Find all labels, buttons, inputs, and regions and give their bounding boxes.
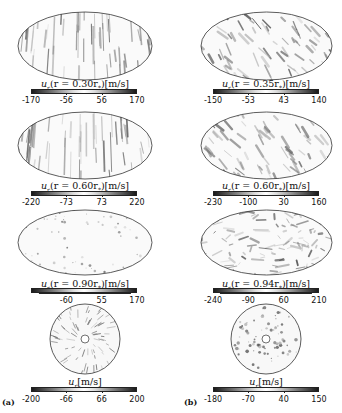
colorbar [213,191,319,196]
colorbar-tick-mark [248,195,249,197]
colorbar-tick-label: 43 [279,96,289,105]
colorbar-tick-label: 73 [97,198,107,207]
colorbar-tick-label: 210 [311,296,326,305]
colorbar-tick-mark [248,292,249,294]
label-tail: )[m/s] [101,78,129,89]
colorbar-tick-label: 30 [279,198,289,207]
colorbar [31,288,137,293]
colorbar-tick-label: -200 [22,395,40,404]
colorbar-tick-label: 150 [311,395,326,404]
colorbar-tick-label: -220 [22,198,40,207]
label-tail: )[m/s] [101,180,129,191]
label-tail: )[m/s] [282,180,310,191]
colorbar-tick-label: -180 [204,395,222,404]
label-tail: [m/s] [77,376,102,387]
colorbar-tick-label: 66 [97,395,107,404]
equatorial-disc-map [230,303,302,375]
colorbar-tick-label: 200 [129,395,144,404]
colorbar-tick-label: -66 [60,395,73,404]
label-expr: (r = 0.35r [231,78,279,89]
colorbar-tick-label: -100 [239,198,257,207]
colorbar-tick-label: 140 [311,96,326,105]
colorbar [31,89,137,94]
colorbar-tick-mark [284,93,285,95]
colorbar-tick-label: -53 [242,96,255,105]
mollweide-map [17,11,153,81]
colorbar-tick-mark [102,292,103,294]
colorbar-tick-mark [284,391,285,393]
colorbar-tick-mark [248,391,249,393]
colorbar-tick-label: -170 [22,96,40,105]
label-expr: (r = 0.30r [50,78,98,89]
colorbar-tick-mark [102,391,103,393]
colorbar-tick-label: 40 [279,395,289,404]
colorbar-tick-mark [284,292,285,294]
colorbar-tick-mark [102,195,103,197]
equatorial-disc-map [49,303,121,375]
subfigure-label-a: (a) [2,397,15,407]
colorbar [31,191,137,196]
colorbar-tick-label: -240 [204,296,222,305]
mollweide-map [17,209,153,276]
subfigure-label-b: (b) [184,397,197,407]
colorbar-tick-label: 170 [129,96,144,105]
colorbar-tick-label: 170 [129,296,144,305]
colorbar-tick-mark [66,292,67,294]
colorbar-tick-label: -230 [204,198,222,207]
colorbar-tick-label: 220 [129,198,144,207]
colorbar [213,288,319,293]
colorbar-tick-label: -73 [60,198,73,207]
colorbar-tick-mark [284,195,285,197]
colorbar-tick-mark [66,391,67,393]
label-expr: (r = 0.60r [50,180,98,191]
colorbar-tick-label: -70 [242,395,255,404]
colorbar [31,387,137,392]
label-tail: )[m/s] [282,78,310,89]
colorbar-tick-mark [66,195,67,197]
colorbar-tick-mark [102,93,103,95]
mollweide-map [17,111,153,180]
colorbar [213,89,319,94]
colorbar-tick-label: -56 [60,96,73,105]
mollweide-map [200,11,333,81]
colorbar [213,387,319,392]
mollweide-map [200,209,333,276]
colorbar-tick-mark [248,93,249,95]
colorbar-tick-label: 56 [97,96,107,105]
label-tail: [m/s] [258,376,283,387]
colorbar-tick-label: -150 [204,96,222,105]
label-expr: (r = 0.60r [231,180,279,191]
mollweide-map [200,111,333,180]
colorbar-tick-mark [66,93,67,95]
colorbar-tick-label: 160 [311,198,326,207]
